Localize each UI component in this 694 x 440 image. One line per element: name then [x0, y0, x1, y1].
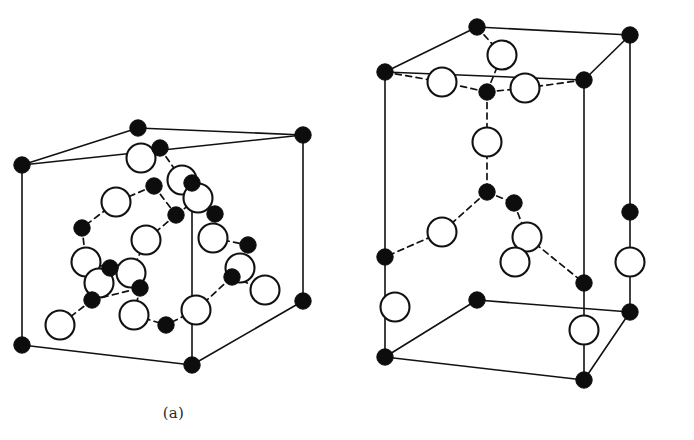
- open-atoms-b: [381, 41, 645, 345]
- filled-atom-icon: [184, 357, 200, 373]
- filled-atom-icon: [130, 120, 146, 136]
- open-atom-icon: [473, 128, 502, 157]
- wurtzite-unit-cell-diagram: [347, 0, 694, 440]
- filled-atom-icon: [469, 292, 485, 308]
- filled-atom-icon: [14, 157, 30, 173]
- filled-atom-icon: [622, 304, 638, 320]
- open-atom-icon: [46, 311, 75, 340]
- filled-atom-icon: [184, 175, 200, 191]
- filled-atom-icon: [146, 178, 162, 194]
- filled-atom-icon: [295, 127, 311, 143]
- filled-atom-icon: [14, 337, 30, 353]
- filled-atom-icon: [158, 317, 174, 333]
- filled-atom-icon: [576, 72, 592, 88]
- cell-edge: [385, 357, 584, 380]
- open-atom-icon: [102, 188, 131, 217]
- filled-atom-icon: [506, 195, 522, 211]
- filled-atom-icon: [240, 237, 256, 253]
- open-atom-icon: [120, 301, 149, 330]
- cell-edge: [477, 300, 630, 312]
- filled-atom-icon: [84, 292, 100, 308]
- open-atom-icon: [132, 226, 161, 255]
- open-atom-icon: [381, 293, 410, 322]
- filled-atom-icon: [168, 207, 184, 223]
- open-atom-icon: [428, 218, 457, 247]
- filled-atom-icon: [207, 206, 223, 222]
- filled-atom-icon: [622, 204, 638, 220]
- cell-edge: [385, 72, 584, 80]
- filled-atom-icon: [74, 220, 90, 236]
- open-atom-icon: [199, 224, 228, 253]
- caption-panel-a: (a): [0, 404, 347, 422]
- cell-edge: [584, 35, 630, 80]
- figure-root: (a) (b): [0, 0, 694, 440]
- open-atom-icon: [616, 248, 645, 277]
- cell-edge: [385, 27, 477, 72]
- open-atom-icon: [488, 41, 517, 70]
- open-atom-icon: [127, 144, 156, 173]
- panel-wurtzite: (b): [347, 0, 694, 440]
- cell-edge: [477, 27, 630, 35]
- filled-atom-icon: [295, 293, 311, 309]
- cell-edge: [138, 128, 303, 135]
- filled-atom-icon: [576, 372, 592, 388]
- filled-atom-icon: [132, 280, 148, 296]
- filled-atom-icon: [622, 27, 638, 43]
- filled-atom-icon: [469, 19, 485, 35]
- open-atom-icon: [501, 248, 530, 277]
- open-atom-icon: [511, 74, 540, 103]
- filled-atom-icon: [576, 275, 592, 291]
- open-atom-icon: [570, 316, 599, 345]
- open-atom-icon: [251, 276, 280, 305]
- filled-atom-icon: [479, 184, 495, 200]
- open-atom-icon: [428, 68, 457, 97]
- panel-zincblende: (a): [0, 0, 347, 440]
- filled-atom-icon: [479, 84, 495, 100]
- filled-atom-icon: [152, 140, 168, 156]
- open-atom-icon: [182, 296, 211, 325]
- filled-atom-icon: [224, 269, 240, 285]
- filled-atom-icon: [377, 249, 393, 265]
- filled-atom-icon: [102, 260, 118, 276]
- cell-edge: [22, 345, 192, 365]
- filled-atom-icon: [377, 64, 393, 80]
- filled-atom-icon: [377, 349, 393, 365]
- zincblende-unit-cell-diagram: [0, 0, 347, 440]
